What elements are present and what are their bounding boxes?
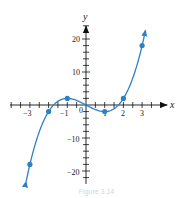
function-graph: x y −3 −1 0 1 2 3 20 10 −10 −20 xyxy=(0,0,193,198)
y-tick-label: 10 xyxy=(72,68,80,77)
x-tick-label: 3 xyxy=(140,109,144,118)
data-point xyxy=(140,43,145,48)
x-tick-label: −3 xyxy=(23,109,32,118)
origin-label: 0 xyxy=(79,106,83,115)
data-point xyxy=(102,109,107,114)
data-point xyxy=(65,96,70,101)
y-tick-label: 20 xyxy=(72,35,80,44)
y-axis-label: y xyxy=(82,11,88,22)
y-tick-label: −20 xyxy=(67,168,80,177)
data-point xyxy=(46,109,51,114)
x-tick-label: −1 xyxy=(60,109,69,118)
x-axis-label: x xyxy=(169,99,175,110)
data-point xyxy=(121,96,126,101)
y-tick-label: −10 xyxy=(67,135,80,144)
x-tick-label: 2 xyxy=(121,109,125,118)
data-point xyxy=(27,162,32,167)
figure-caption: Figure 3.14 xyxy=(0,188,193,195)
